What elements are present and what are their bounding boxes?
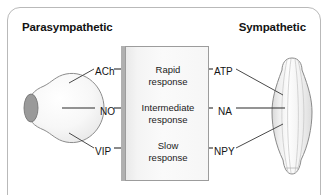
label-npy: NPY: [214, 146, 235, 157]
response-slow-line2: response: [126, 152, 210, 164]
label-no: NO: [100, 106, 115, 117]
label-na: NA: [218, 106, 232, 117]
label-vip: VIP: [95, 146, 111, 157]
heading-sympathetic: Sympathetic: [239, 21, 306, 33]
response-intermediate-line2: response: [126, 114, 210, 126]
response-box: Rapid response Intermediate response Slo…: [125, 46, 209, 181]
response-rapid-line1: Rapid: [126, 64, 210, 76]
response-row-intermediate: Intermediate response: [126, 102, 210, 125]
response-slow-line1: Slow: [126, 140, 210, 152]
label-ach: ACh: [95, 66, 114, 77]
response-rapid-line2: response: [126, 76, 210, 88]
response-intermediate-line1: Intermediate: [126, 102, 210, 114]
response-row-slow: Slow response: [126, 140, 210, 163]
label-atp: ATP: [214, 66, 233, 77]
figure-canvas: Parasympathetic Sympathetic: [0, 0, 328, 195]
response-row-rapid: Rapid response: [126, 64, 210, 87]
heading-parasympathetic: Parasympathetic: [22, 21, 113, 33]
